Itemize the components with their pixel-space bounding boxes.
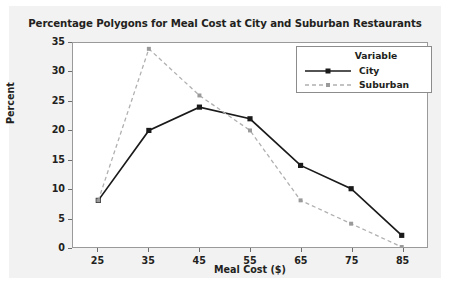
x-tick-mark [301, 248, 302, 252]
y-tick-label: 25 [39, 95, 65, 106]
y-tick-label: 10 [39, 183, 65, 194]
data-point-suburban [299, 198, 303, 202]
legend-title: Variable [297, 50, 433, 61]
x-tick-mark [199, 248, 200, 252]
y-tick-label: 5 [39, 213, 65, 224]
legend-swatch-city [303, 64, 353, 78]
data-point-suburban [349, 222, 353, 226]
y-tick-label: 20 [39, 124, 65, 135]
legend-box: Variable City Suburban [296, 46, 432, 93]
data-point-suburban [248, 128, 252, 132]
y-tick-label: 30 [39, 65, 65, 76]
data-point-city [247, 116, 252, 121]
y-tick-label: 15 [39, 154, 65, 165]
data-point-city [349, 186, 354, 191]
data-point-suburban [96, 198, 100, 202]
chart-figure: Percentage Polygons for Meal Cost at Cit… [0, 0, 449, 291]
legend-swatch-suburban [303, 78, 353, 92]
legend-item-city[interactable]: City [297, 64, 433, 78]
y-tick-label: 0 [39, 242, 65, 253]
data-point-city [146, 128, 151, 133]
x-axis-label: Meal Cost ($) [72, 264, 428, 275]
x-tick-mark [97, 248, 98, 252]
x-tick-mark [403, 248, 404, 252]
x-tick-mark [352, 248, 353, 252]
data-point-city [197, 105, 202, 110]
x-tick-mark [250, 248, 251, 252]
y-tick-label: 35 [39, 36, 65, 47]
y-axis-label: Percent [5, 82, 16, 124]
figure-canvas: Percentage Polygons for Meal Cost at Cit… [9, 6, 441, 278]
data-point-suburban [147, 47, 151, 51]
data-point-city [298, 163, 303, 168]
series-line-city [98, 107, 401, 235]
data-point-city [399, 233, 404, 238]
legend-item-suburban[interactable]: Suburban [297, 78, 433, 92]
data-point-suburban [400, 245, 404, 247]
legend-label-city: City [359, 65, 379, 76]
chart-title: Percentage Polygons for Meal Cost at Cit… [9, 18, 441, 29]
y-tick-mark [68, 248, 72, 249]
legend-label-suburban: Suburban [359, 79, 409, 90]
data-point-suburban [197, 93, 201, 97]
x-tick-mark [148, 248, 149, 252]
